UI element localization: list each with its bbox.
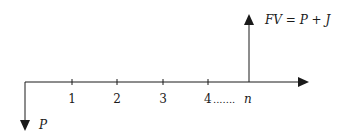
time-axis-arrow-icon <box>298 77 309 87</box>
cash-flow-diagram: 1 2 3 4 ....... n P FV = P + J <box>0 0 351 136</box>
period-label-2: 2 <box>113 92 121 106</box>
future-value-label: FV = P + J <box>264 13 331 27</box>
timeline-svg: 1 2 3 4 ....... n P FV = P + J <box>0 0 351 136</box>
down-arrow-icon <box>20 120 30 131</box>
present-value-label: P <box>38 118 48 132</box>
period-label-1: 1 <box>68 92 76 106</box>
period-ellipsis: ....... <box>213 94 235 105</box>
period-label-3: 3 <box>159 92 167 106</box>
period-label-4: 4 <box>204 92 212 106</box>
period-label-n: n <box>244 92 252 106</box>
up-arrow-icon <box>244 14 254 25</box>
